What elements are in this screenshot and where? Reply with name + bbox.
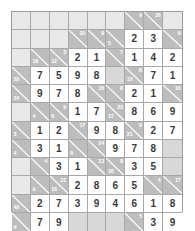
clue-down: 20 (14, 77, 20, 82)
clue-across: 17 (175, 178, 181, 183)
answer-cell[interactable]: 8 (144, 140, 163, 158)
clue-cell: 123 (50, 49, 69, 67)
answer-digit: 7 (31, 67, 49, 84)
clue-down: 16 (51, 187, 57, 192)
answer-cell[interactable]: 6 (144, 103, 163, 121)
answer-cell[interactable]: 1 (125, 49, 144, 67)
answer-digit: 7 (144, 67, 162, 84)
answer-cell[interactable]: 8 (163, 195, 182, 213)
clue-across: 4 (44, 159, 47, 164)
answer-cell[interactable]: 3 (125, 158, 144, 176)
clue-cell: 24 (12, 85, 31, 103)
clue-cell: 9 (31, 176, 50, 194)
grid-row: 4311316835 (12, 158, 182, 176)
answer-cell[interactable]: 3 (69, 195, 88, 213)
clue-across: 16 (98, 86, 104, 91)
answer-cell[interactable]: 2 (125, 85, 144, 103)
answer-cell[interactable]: 7 (31, 213, 50, 225)
kakuro-board[interactable]: 9162095239181232171422075981087124978168… (11, 11, 183, 212)
answer-cell[interactable]: 9 (50, 213, 69, 225)
answer-cell[interactable]: 2 (144, 122, 163, 140)
clue-cell: 4 (31, 103, 50, 121)
answer-cell[interactable]: 1 (163, 67, 182, 85)
answer-cell[interactable]: 7 (50, 195, 69, 213)
answer-digit: 8 (88, 176, 106, 193)
answer-cell[interactable]: 7 (50, 85, 69, 103)
grid-row: 18123217142 (12, 49, 182, 67)
answer-cell[interactable]: 7 (144, 67, 163, 85)
clue-cell: 168 (106, 158, 125, 176)
answer-digit: 2 (144, 122, 162, 139)
clue-cell: 17 (163, 176, 182, 194)
answer-cell[interactable]: 2 (31, 195, 50, 213)
answer-digit: 9 (88, 122, 106, 139)
answer-digit: 1 (163, 67, 182, 84)
answer-cell[interactable]: 5 (50, 67, 69, 85)
answer-cell[interactable]: 7 (88, 103, 107, 121)
answer-cell[interactable]: 8 (106, 122, 125, 140)
answer-cell[interactable]: 9 (88, 122, 107, 140)
answer-cell[interactable]: 8 (69, 85, 88, 103)
answer-cell[interactable]: 3 (144, 213, 163, 225)
clue-cell: 4 (31, 158, 50, 176)
answer-cell[interactable]: 3 (144, 30, 163, 48)
clue-cell: 9 (125, 12, 144, 30)
answer-cell[interactable]: 3 (50, 158, 69, 176)
answer-cell[interactable]: 1 (88, 49, 107, 67)
answer-cell[interactable]: 8 (125, 103, 144, 121)
answer-cell[interactable]: 1 (144, 85, 163, 103)
answer-cell[interactable]: 9 (31, 85, 50, 103)
answer-digit: 9 (69, 67, 87, 84)
answer-digit: 5 (144, 158, 162, 175)
clue-across: 16 (175, 86, 181, 91)
empty-cell (31, 12, 50, 30)
answer-digit: 6 (144, 103, 162, 120)
answer-cell[interactable]: 4 (106, 195, 125, 213)
grid-row: 916 (12, 12, 182, 30)
answer-digit: 8 (144, 140, 162, 157)
clue-down: 3 (14, 132, 17, 137)
answer-cell[interactable]: 7 (31, 67, 50, 85)
empty-cell (69, 12, 88, 30)
answer-digit: 3 (31, 140, 49, 157)
answer-cell[interactable]: 1 (144, 195, 163, 213)
answer-cell[interactable]: 6 (106, 176, 125, 194)
answer-cell[interactable]: 2 (69, 49, 88, 67)
clue-across: 8 (120, 86, 123, 91)
answer-digit: 2 (69, 176, 87, 193)
answer-cell[interactable]: 8 (88, 176, 107, 194)
answer-digit: 8 (163, 195, 182, 212)
clue-across: 3 (63, 50, 66, 55)
answer-cell[interactable]: 9 (69, 67, 88, 85)
answer-cell[interactable]: 1 (69, 103, 88, 121)
answer-cell[interactable]: 5 (125, 176, 144, 194)
answer-cell[interactable]: 2 (125, 30, 144, 48)
answer-cell[interactable]: 1 (50, 140, 69, 158)
clue-down: 17 (108, 114, 114, 119)
answer-cell[interactable]: 2 (50, 122, 69, 140)
answer-digit: 1 (69, 158, 87, 175)
answer-cell[interactable]: 1 (31, 122, 50, 140)
answer-digit: 8 (125, 103, 143, 120)
answer-cell[interactable]: 3 (31, 140, 50, 158)
empty-cell (12, 176, 31, 194)
answer-digit: 2 (125, 30, 143, 47)
answer-cell[interactable]: 1 (69, 158, 88, 176)
blank-cell (163, 140, 182, 158)
answer-cell[interactable]: 2 (69, 176, 88, 194)
answer-digit: 5 (50, 67, 68, 84)
answer-cell[interactable]: 7 (125, 140, 144, 158)
answer-cell[interactable]: 5 (144, 158, 163, 176)
answer-digit: 2 (50, 122, 68, 139)
answer-cell[interactable]: 2 (163, 49, 182, 67)
clue-down: 18 (32, 59, 38, 64)
clue-cell: 16 (144, 12, 163, 30)
answer-cell[interactable]: 9 (106, 140, 125, 158)
answer-cell[interactable]: 6 (125, 195, 144, 213)
answer-cell[interactable]: 7 (163, 122, 182, 140)
answer-cell[interactable]: 9 (88, 195, 107, 213)
answer-cell[interactable]: 8 (88, 67, 107, 85)
answer-cell[interactable]: 4 (144, 49, 163, 67)
answer-cell[interactable]: 9 (163, 213, 182, 225)
answer-cell[interactable]: 9 (163, 103, 182, 121)
